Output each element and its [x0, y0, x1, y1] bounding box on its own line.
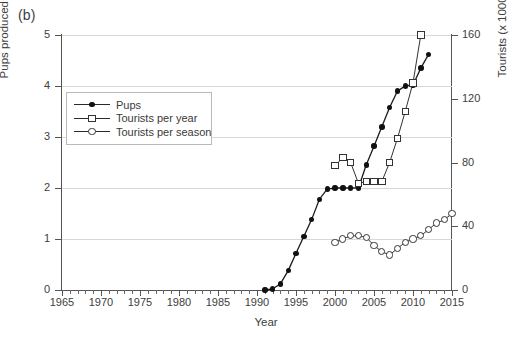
y-axis-right-tick — [451, 99, 458, 100]
y-axis-left-tick — [55, 86, 62, 87]
x-axis-tick-minor — [195, 290, 196, 294]
x-axis-tick-minor — [78, 290, 79, 294]
data-point-marker — [317, 197, 322, 202]
chart-legend: Pups Tourists per year Tourists per seas… — [66, 92, 212, 145]
x-axis-tick-minor — [319, 290, 320, 294]
x-axis-tick-minor — [405, 290, 406, 294]
x-axis-tick-minor — [163, 290, 164, 294]
data-point-marker — [370, 178, 377, 185]
x-axis-tick-minor — [249, 290, 250, 294]
data-point-marker — [331, 162, 338, 169]
data-point-marker — [363, 178, 370, 185]
x-axis-tick-minor — [132, 290, 133, 294]
data-point-marker — [395, 88, 400, 93]
y-axis-left-tick-label: 5 — [22, 28, 50, 40]
x-axis-tick-minor — [234, 290, 235, 294]
y-axis-left-tick — [55, 290, 62, 291]
x-axis-tick-minor — [366, 290, 367, 294]
y-axis-right-tick — [451, 163, 458, 164]
x-axis-tick-minor — [351, 290, 352, 294]
x-axis-tick-minor — [304, 290, 305, 294]
data-point-marker — [355, 180, 362, 187]
y-axis-left-tick-label: 4 — [22, 79, 50, 91]
y-axis-left-tick-label: 3 — [22, 130, 50, 142]
x-axis-tick-minor — [436, 290, 437, 294]
x-axis-tick-minor — [358, 290, 359, 294]
data-point-marker — [386, 251, 393, 258]
x-axis-tick-minor — [109, 290, 110, 294]
legend-item-tourists-per-year: Tourists per year — [72, 112, 205, 126]
panel-label: (b) — [18, 7, 36, 23]
plot-area — [62, 35, 452, 290]
data-point-marker — [364, 162, 369, 167]
series-line — [265, 54, 429, 290]
x-axis-tick-minor — [187, 290, 188, 294]
y-axis-right-tick-label: 160 — [462, 28, 496, 40]
series-lines — [62, 35, 452, 290]
legend-marker-open-square-icon — [72, 112, 112, 124]
x-axis-tick-minor — [93, 290, 94, 294]
x-axis-tick-minor — [202, 290, 203, 294]
y-axis-right-tick — [451, 226, 458, 227]
data-point-marker — [301, 234, 306, 239]
x-axis-tick-minor — [148, 290, 149, 294]
data-point-marker — [347, 159, 354, 166]
data-point-marker — [339, 154, 346, 161]
data-point-marker — [402, 239, 409, 246]
y-axis-right-label: Tourists (x 1000) — [496, 0, 508, 100]
data-point-marker — [394, 135, 401, 142]
x-axis-tick-minor — [444, 290, 445, 294]
data-point-marker — [402, 108, 409, 115]
x-axis-tick-minor — [280, 290, 281, 294]
y-axis-right-tick-label: 40 — [462, 219, 496, 231]
x-axis-tick-minor — [343, 290, 344, 294]
data-point-marker — [340, 185, 345, 190]
x-axis-tick-minor — [288, 290, 289, 294]
data-point-marker — [370, 242, 377, 249]
data-point-marker — [386, 159, 393, 166]
data-point-marker — [262, 287, 267, 292]
data-point-marker — [409, 79, 416, 86]
data-point-marker — [278, 281, 283, 286]
y-axis-left-tick — [55, 35, 62, 36]
data-point-marker — [378, 178, 385, 185]
data-point-marker — [331, 239, 338, 246]
legend-marker-filled-circle-icon — [72, 99, 112, 111]
data-point-marker — [339, 235, 346, 242]
y-axis-left-tick — [55, 137, 62, 138]
legend-label-tourists-per-year: Tourists per year — [112, 112, 197, 124]
y-axis-right-tick — [451, 35, 458, 36]
x-axis-tick-minor — [124, 290, 125, 294]
x-axis-tick-minor — [226, 290, 227, 294]
data-point-marker — [433, 219, 440, 226]
y-axis-left-tick-label: 1 — [22, 232, 50, 244]
y-axis-right-tick-label: 80 — [462, 156, 496, 168]
x-axis-tick-minor — [156, 290, 157, 294]
x-axis-tick-minor — [429, 290, 430, 294]
x-axis-tick-minor — [210, 290, 211, 294]
x-axis-tick-minor — [312, 290, 313, 294]
x-axis-tick-minor — [382, 290, 383, 294]
figure-panel-b: (b) Pups produced (x 1000) Tourists (x 1… — [0, 0, 532, 346]
x-axis-tick-minor — [70, 290, 71, 294]
legend-label-tourists-per-season: Tourists per season — [112, 126, 211, 138]
legend-label-pups: Pups — [112, 99, 141, 111]
data-point-marker — [448, 210, 455, 217]
y-axis-left-tick — [55, 239, 62, 240]
x-axis-tick-minor — [327, 290, 328, 294]
data-point-marker — [363, 234, 370, 241]
legend-item-pups: Pups — [72, 98, 205, 112]
y-axis-left-tick — [55, 188, 62, 189]
y-axis-right-tick-label: 120 — [462, 92, 496, 104]
data-point-marker — [332, 185, 337, 190]
x-axis-tick-label: 2015 — [429, 296, 475, 308]
data-point-marker — [371, 143, 376, 148]
x-axis-tick-minor — [117, 290, 118, 294]
x-axis-tick-minor — [421, 290, 422, 294]
data-point-marker — [403, 83, 408, 88]
data-point-marker — [409, 235, 416, 242]
data-point-marker — [270, 286, 275, 291]
x-axis-tick-minor — [241, 290, 242, 294]
x-axis-label: Year — [0, 316, 532, 328]
data-point-marker — [379, 124, 384, 129]
